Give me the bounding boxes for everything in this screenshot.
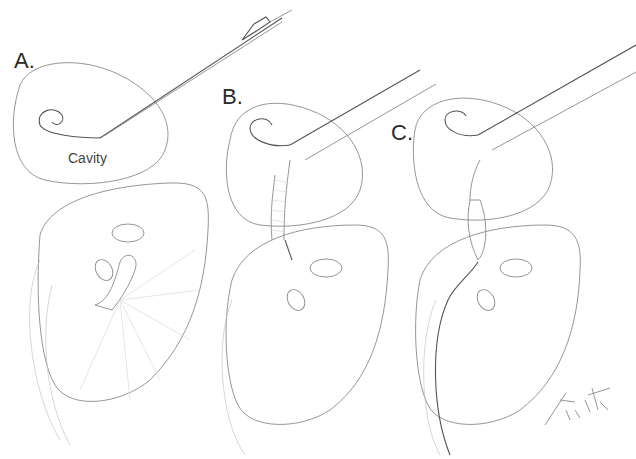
illustration-canvas: [0, 0, 636, 459]
cavity-label: Cavity: [68, 150, 107, 166]
panel-a-drawing: [13, 10, 292, 445]
panel-b-label: B.: [222, 84, 243, 110]
panel-c-drawing: [413, 45, 636, 455]
panel-a-label: A.: [14, 48, 35, 74]
panel-c-label: C.: [391, 120, 413, 146]
signature-mark: [545, 388, 610, 425]
